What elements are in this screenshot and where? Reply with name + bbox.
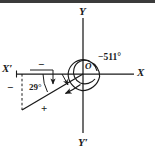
reference-angle-label: 29° [29, 83, 42, 92]
reference-angle-arc [43, 74, 48, 92]
origin-label: O [85, 62, 92, 71]
angle-spiral-outer [68, 60, 99, 91]
total-angle-measure-label: −511° [98, 53, 121, 63]
angle-diagram-canvas [0, 0, 155, 156]
angle-diagram-figure: X X′ Y Y′ O −511° 29° − − + [0, 0, 155, 156]
x-axis-positive-label: X [137, 67, 144, 78]
y-axis-negative-label: Y′ [78, 137, 88, 148]
negative-sign-top-label: − [38, 59, 44, 70]
reference-angle-pointer-secondary [62, 74, 68, 85]
x-axis-negative-label: X′ [2, 63, 12, 74]
y-axis-positive-label: Y [79, 6, 86, 17]
positive-sign-bottom-label: + [41, 103, 47, 114]
negative-sign-left-label: − [7, 82, 13, 93]
